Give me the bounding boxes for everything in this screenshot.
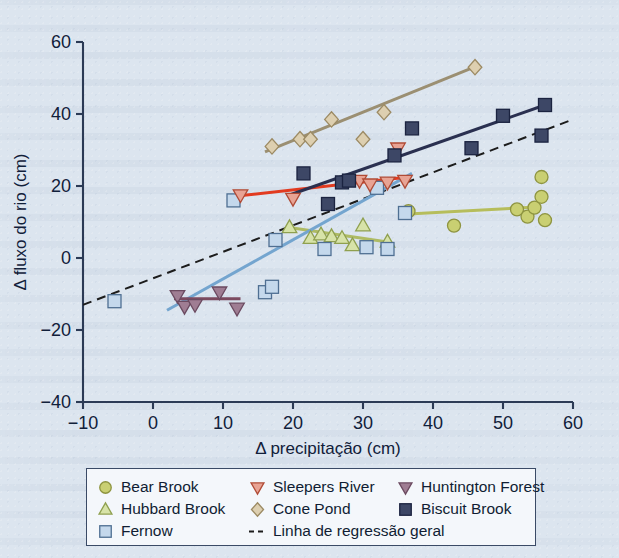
- legend-label: Bear Brook: [121, 479, 199, 495]
- x-tick-label: 40: [423, 413, 443, 433]
- data-point-biscuit-brook: [322, 198, 335, 211]
- square-icon: [397, 501, 414, 518]
- data-point-biscuit-brook: [388, 149, 401, 162]
- x-tick-label: 30: [353, 413, 373, 433]
- data-point-fernow: [269, 234, 282, 247]
- data-point-cone-pond: [468, 60, 482, 75]
- data-point-fernow: [318, 243, 331, 256]
- x-tick-label: −10: [68, 413, 99, 433]
- diamond-icon: [249, 501, 266, 518]
- x-tick-label: 0: [148, 413, 158, 433]
- data-point-bear-brook: [448, 219, 461, 232]
- legend-entry-fernow: Fernow: [97, 523, 249, 540]
- legend-entry-hubbard-brook: Hubbard Brook: [97, 501, 249, 518]
- legend-label: Sleepers River: [273, 479, 375, 495]
- legend-label: Fernow: [121, 523, 173, 539]
- data-point-biscuit-brook: [465, 142, 478, 155]
- legend-label: Huntington Forest: [421, 479, 544, 495]
- legend-label: Cone Pond: [273, 501, 351, 517]
- legend-entry-sleepers-river: Sleepers River: [249, 479, 397, 496]
- data-point-cone-pond: [325, 112, 339, 127]
- y-axis: −40−200204060Δ fluxo do rio (cm): [11, 32, 83, 412]
- series-huntington-forest: [170, 287, 244, 316]
- overall-regression-line: [83, 119, 573, 304]
- y-tick-label: 60: [51, 32, 71, 52]
- data-point-biscuit-brook: [406, 122, 419, 135]
- triangle-up-icon: [97, 501, 114, 518]
- data-point-biscuit-brook: [539, 99, 552, 112]
- data-point-biscuit-brook: [297, 167, 310, 180]
- x-tick-label: 50: [493, 413, 513, 433]
- y-tick-label: −40: [40, 392, 71, 412]
- legend-label: Hubbard Brook: [121, 501, 225, 517]
- data-point-bear-brook: [535, 171, 548, 184]
- series-sleepers-river: [233, 143, 412, 206]
- series-bear-brook: [402, 171, 552, 233]
- circle-icon: [97, 479, 114, 496]
- data-point-huntington-forest: [230, 303, 245, 316]
- y-tick-label: 20: [51, 176, 71, 196]
- data-point-sleepers-river: [286, 193, 301, 206]
- x-tick-label: 10: [213, 413, 233, 433]
- x-tick-label: 20: [283, 413, 303, 433]
- data-point-hubbard-brook: [282, 220, 297, 233]
- data-point-fernow: [266, 280, 279, 293]
- data-point-bear-brook: [535, 190, 548, 203]
- dashed-line-icon: [249, 523, 266, 540]
- data-point-fernow: [360, 241, 373, 254]
- x-axis-title: Δ precipitação (cm): [255, 439, 401, 458]
- triangle-down-icon: [249, 479, 266, 496]
- x-tick-label: 60: [563, 413, 583, 433]
- data-point-fernow: [381, 243, 394, 256]
- square-icon: [97, 523, 114, 540]
- data-point-biscuit-brook: [497, 109, 510, 122]
- data-point-cone-pond: [356, 132, 370, 147]
- data-point-hubbard-brook: [356, 218, 371, 231]
- data-point-fernow: [108, 295, 121, 308]
- y-tick-label: 40: [51, 104, 71, 124]
- data-point-bear-brook: [539, 214, 552, 227]
- chart-legend: Bear BrookSleepers RiverHuntington Fores…: [86, 468, 536, 546]
- data-point-biscuit-brook: [343, 174, 356, 187]
- y-tick-label: 0: [61, 248, 71, 268]
- plot-area: [83, 60, 573, 316]
- data-point-biscuit-brook: [535, 129, 548, 142]
- legend-entry-cone-pond: Cone Pond: [249, 501, 397, 518]
- legend-label: Linha de regressão geral: [273, 523, 444, 539]
- triangle-down-icon: [397, 479, 414, 496]
- y-axis-title: Δ fluxo do rio (cm): [11, 153, 30, 290]
- legend-entry-biscuit-brook: Biscuit Brook: [397, 501, 544, 518]
- legend-entry-huntington-forest: Huntington Forest: [397, 479, 544, 496]
- data-point-fernow: [399, 207, 412, 220]
- legend-label: Biscuit Brook: [421, 501, 511, 517]
- legend-entry-bear-brook: Bear Brook: [97, 479, 249, 496]
- y-tick-label: −20: [40, 320, 71, 340]
- x-axis: −100102030405060Δ precipitação (cm): [68, 402, 583, 458]
- legend-entry-linha-de-regresso-geral: Linha de regressão geral: [249, 523, 544, 540]
